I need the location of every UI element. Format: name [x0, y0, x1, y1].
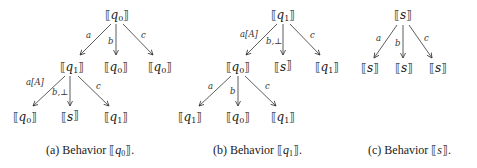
edge-c	[78, 76, 109, 106]
tree-a: ⟦q0⟧ a b c ⟦q1⟧ ⟦q0⟧ ⟦q0⟧ a[A] b,⊥ c ⟦q0…	[13, 8, 173, 125]
tree-a-root: ⟦q0⟧	[105, 8, 130, 23]
tree-a-l1-1: ⟦q0⟧	[104, 60, 129, 75]
edge-label-c: c	[424, 33, 429, 43]
edge-label-aA: a[A]	[240, 29, 259, 39]
caption-c-suffix: .	[448, 143, 451, 157]
caption-a-prefix: (a) Behavior	[46, 143, 109, 157]
edge-c	[123, 24, 153, 55]
tree-a-l1-2: ⟦q0⟧	[148, 60, 173, 75]
edge-a	[80, 24, 111, 55]
edge-label-c: c	[265, 81, 270, 91]
caption-a: (a) Behavior ⟦q0⟧.	[46, 143, 134, 158]
edge-c	[245, 76, 276, 106]
edge-label-a: a	[208, 81, 213, 91]
caption-a-suffix: .	[131, 143, 134, 157]
edge-label-b-bot: b,⊥	[52, 87, 68, 97]
tree-a-l2-0: ⟦q0⟧	[13, 110, 38, 125]
tree-b-l2-2: ⟦q1⟧	[271, 110, 296, 125]
tree-b-l1-1: ⟦s⟧	[274, 58, 292, 74]
edge-label-b-bot: b,⊥	[266, 36, 282, 46]
edge-a	[199, 76, 231, 106]
caption-b-suffix: .	[299, 143, 302, 157]
tree-b-root: ⟦q1⟧	[271, 8, 296, 23]
edge-label-c: c	[310, 30, 315, 40]
tree-b-l2-0: ⟦q1⟧	[178, 110, 203, 125]
edge-label-c: c	[96, 81, 101, 91]
tree-b-l1-2: ⟦q1⟧	[315, 60, 340, 75]
edge-label-aA: a[A]	[26, 77, 45, 87]
caption-c: (c) Behavior ⟦s⟧.	[368, 143, 451, 158]
tree-c-l1-0: ⟦s⟧	[361, 61, 379, 75]
tree-c-l1-1: ⟦s⟧	[395, 61, 413, 75]
edge-label-a: a	[376, 33, 381, 43]
tree-c-root: ⟦s⟧	[394, 8, 412, 22]
edge-label-c: c	[141, 30, 146, 40]
tree-b-l1-0: ⟦q0⟧	[226, 60, 251, 75]
tree-c: ⟦s⟧ a b c ⟦s⟧ ⟦s⟧ ⟦s⟧	[361, 8, 447, 75]
tree-c-l1-2: ⟦s⟧	[429, 61, 447, 75]
tree-b-l2-1: ⟦q0⟧	[226, 110, 251, 125]
tree-b: ⟦q1⟧ a[A] b,⊥ c ⟦q0⟧ ⟦s⟧ ⟦q1⟧ a b c ⟦q1⟧…	[178, 8, 340, 125]
edge-label-b: b	[108, 36, 113, 46]
edge-c	[290, 24, 320, 55]
caption-c-prefix: (c) Behavior	[368, 143, 431, 157]
edge-label-b: b	[230, 86, 235, 96]
caption-b-prefix: (b) Behavior	[213, 143, 277, 157]
edge-label-b: b	[395, 38, 400, 48]
tree-a-l1-0: ⟦q1⟧	[60, 60, 85, 75]
tree-a-l2-2: ⟦q1⟧	[104, 110, 129, 125]
caption-b: (b) Behavior ⟦q1⟧.	[213, 143, 302, 158]
edge-label-a: a	[86, 30, 91, 40]
tree-a-l2-1: ⟦s⟧	[61, 108, 79, 124]
